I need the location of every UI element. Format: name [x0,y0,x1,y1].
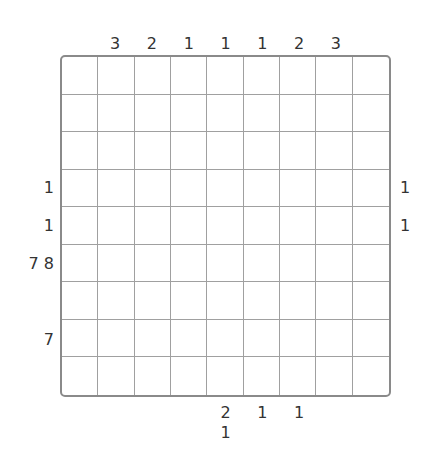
left-clue-row-8: 7 [44,331,54,349]
grid-cell-r6-c5[interactable] [207,245,243,283]
grid-cell-r3-c1[interactable] [62,132,98,170]
grid-cell-r9-c2[interactable] [98,357,134,395]
grid-cell-r8-c8[interactable] [316,320,352,358]
top-clue-col-6: 1 [244,35,280,53]
grid-cell-r5-c9[interactable] [353,207,389,245]
bottom-clue-col-5: 21 [208,403,244,443]
grid-cell-r6-c9[interactable] [353,245,389,283]
grid-cell-r7-c6[interactable] [244,282,280,320]
grid-cell-r8-c9[interactable] [353,320,389,358]
grid-cell-r7-c2[interactable] [98,282,134,320]
grid-cell-r2-c6[interactable] [244,95,280,133]
grid-cell-r4-c1[interactable] [62,170,98,208]
top-clue-col-5: 1 [208,35,244,53]
grid-cell-r6-c7[interactable] [280,245,316,283]
grid-cell-r2-c2[interactable] [98,95,134,133]
grid-cell-r7-c7[interactable] [280,282,316,320]
grid-cell-r7-c3[interactable] [135,282,171,320]
grid-cell-r5-c6[interactable] [244,207,280,245]
puzzle-grid [60,55,391,397]
grid-cell-r3-c2[interactable] [98,132,134,170]
grid-cell-r7-c1[interactable] [62,282,98,320]
grid-cell-r1-c3[interactable] [135,57,171,95]
grid-cell-r2-c4[interactable] [171,95,207,133]
grid-cell-r5-c7[interactable] [280,207,316,245]
grid-cell-r3-c8[interactable] [316,132,352,170]
grid-cell-r8-c6[interactable] [244,320,280,358]
grid-cell-r3-c3[interactable] [135,132,171,170]
grid-cell-r8-c3[interactable] [135,320,171,358]
grid-cell-r6-c2[interactable] [98,245,134,283]
grid-cell-r3-c6[interactable] [244,132,280,170]
grid-cell-r9-c3[interactable] [135,357,171,395]
grid-cell-r3-c4[interactable] [171,132,207,170]
grid-cell-r9-c4[interactable] [171,357,207,395]
grid-cell-r1-c1[interactable] [62,57,98,95]
grid-cell-r6-c3[interactable] [135,245,171,283]
left-clue-row-5: 1 [44,217,54,235]
grid-cell-r8-c1[interactable] [62,320,98,358]
grid-cell-r9-c5[interactable] [207,357,243,395]
top-clue-col-8: 3 [318,35,354,53]
grid-cell-r4-c6[interactable] [244,170,280,208]
grid-cell-r1-c9[interactable] [353,57,389,95]
grid-cell-r5-c1[interactable] [62,207,98,245]
grid-cell-r5-c5[interactable] [207,207,243,245]
grid-cell-r7-c9[interactable] [353,282,389,320]
grid-cell-r6-c6[interactable] [244,245,280,283]
grid-cell-r2-c5[interactable] [207,95,243,133]
grid-cell-r9-c8[interactable] [316,357,352,395]
grid-cell-r5-c2[interactable] [98,207,134,245]
grid-cell-r2-c3[interactable] [135,95,171,133]
grid-cell-r9-c7[interactable] [280,357,316,395]
grid-cell-r5-c3[interactable] [135,207,171,245]
bottom-clue-value: 2 [208,403,244,423]
grid-cell-r8-c7[interactable] [280,320,316,358]
grid-cell-r4-c7[interactable] [280,170,316,208]
grid-cell-r9-c9[interactable] [353,357,389,395]
grid-cell-r7-c4[interactable] [171,282,207,320]
grid-cell-r5-c8[interactable] [316,207,352,245]
top-clue-col-3: 2 [134,35,170,53]
grid-cell-r1-c4[interactable] [171,57,207,95]
top-clue-col-4: 1 [171,35,207,53]
grid-cell-r2-c9[interactable] [353,95,389,133]
grid-cell-r1-c2[interactable] [98,57,134,95]
grid-cell-r8-c5[interactable] [207,320,243,358]
grid-cell-r1-c8[interactable] [316,57,352,95]
grid-cell-r6-c1[interactable] [62,245,98,283]
grid-cell-r6-c4[interactable] [171,245,207,283]
grid-cell-r8-c4[interactable] [171,320,207,358]
left-clue-row-6: 7 8 [29,255,54,273]
grid-cell-r6-c8[interactable] [316,245,352,283]
grid-cell-r4-c4[interactable] [171,170,207,208]
bottom-clue-value: 1 [208,423,244,443]
grid-cell-r2-c7[interactable] [280,95,316,133]
bottom-clue-col-7: 1 [281,403,317,423]
right-clue-row-4: 1 [400,179,410,197]
grid-cell-r1-c5[interactable] [207,57,243,95]
grid-cell-r1-c6[interactable] [244,57,280,95]
grid-cell-r1-c7[interactable] [280,57,316,95]
grid-cell-r4-c9[interactable] [353,170,389,208]
right-clue-row-5: 1 [400,217,410,235]
grid-cell-r2-c1[interactable] [62,95,98,133]
grid-cell-r9-c6[interactable] [244,357,280,395]
grid-cell-r9-c1[interactable] [62,357,98,395]
grid-cell-r3-c5[interactable] [207,132,243,170]
grid-cell-r4-c5[interactable] [207,170,243,208]
grid-cell-r4-c2[interactable] [98,170,134,208]
grid-cell-r4-c8[interactable] [316,170,352,208]
bottom-clue-value: 1 [281,403,317,423]
grid-cell-r5-c4[interactable] [171,207,207,245]
grid-cell-r7-c8[interactable] [316,282,352,320]
grid-cell-r2-c8[interactable] [316,95,352,133]
grid-cell-r3-c9[interactable] [353,132,389,170]
top-clue-col-7: 2 [281,35,317,53]
bottom-clue-value: 1 [244,403,280,423]
grid-cell-r7-c5[interactable] [207,282,243,320]
grid-cell-r4-c3[interactable] [135,170,171,208]
grid-cell-r3-c7[interactable] [280,132,316,170]
grid-cell-r8-c2[interactable] [98,320,134,358]
top-clue-col-2: 3 [97,35,133,53]
